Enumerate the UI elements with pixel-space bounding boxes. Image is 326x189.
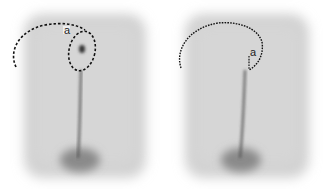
right-photo: a [163, 0, 326, 189]
panel-right: a [163, 0, 326, 189]
lesion [79, 45, 85, 53]
panel-left: a [0, 0, 163, 189]
left-photo: a [0, 0, 163, 189]
label-a-right: a [250, 46, 257, 58]
label-a-left: a [64, 24, 71, 36]
